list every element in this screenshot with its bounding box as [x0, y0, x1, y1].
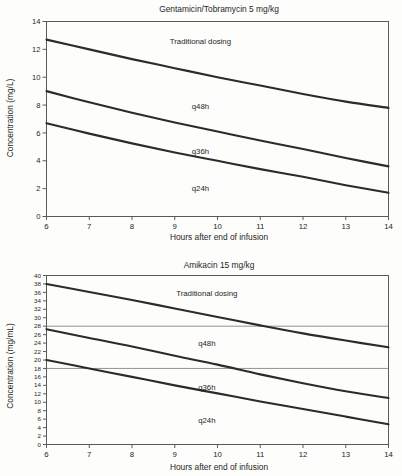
- series-label-q24h: q24h: [198, 416, 215, 425]
- x-tick-label: 6: [44, 222, 48, 231]
- chart-bottom-x-axis-label: Hours after end of infusion: [170, 462, 269, 472]
- chart-top-canvas: Gentamicin/Tobramycin 5 mg/kg Concentrat…: [0, 0, 402, 246]
- chart-amikacin: Amikacin 15 mg/kg Concentration (mg/mL) …: [0, 246, 402, 476]
- y-tick-label: 8: [38, 407, 42, 414]
- y-tick-label: 30: [34, 314, 41, 321]
- x-tick-label: 9: [173, 222, 177, 231]
- y-tick-label: 2: [36, 184, 40, 193]
- y-tick-label: 34: [34, 297, 41, 304]
- y-tick-label: 6: [36, 129, 40, 138]
- x-tick-label: 10: [213, 450, 222, 459]
- chart-bottom-plot-area: 0246810121416182022242628303234363840 67…: [34, 272, 393, 459]
- x-tick-label: 13: [341, 450, 350, 459]
- y-tick-label: 24: [34, 339, 41, 346]
- series-curve-q48h: [47, 91, 389, 166]
- x-tick-label: 14: [384, 222, 393, 231]
- x-tick-label: 7: [87, 450, 91, 459]
- chart-bottom-series: [47, 284, 389, 424]
- x-tick-label: 9: [173, 450, 177, 459]
- y-tick-label: 26: [34, 331, 41, 338]
- y-tick-label: 0: [38, 441, 42, 448]
- y-tick-label: 4: [38, 424, 42, 431]
- chart-top-y-axis-label: Concentration (mg/L): [5, 78, 15, 157]
- y-tick-label: 4: [36, 156, 40, 165]
- x-tick-label: 12: [299, 450, 308, 459]
- chart-top-title: Gentamicin/Tobramycin 5 mg/kg: [159, 4, 279, 14]
- y-tick-label: 22: [34, 348, 41, 355]
- y-tick-label: 8: [36, 101, 40, 110]
- chart-top-y-ticks: [43, 22, 47, 217]
- y-tick-label: 10: [32, 73, 40, 82]
- y-tick-label: 20: [34, 356, 41, 363]
- chart-bottom-frame: [47, 276, 389, 445]
- chart-top-x-axis-label: Hours after end of infusion: [170, 232, 269, 242]
- chart-bottom-title: Amikacin 15 mg/kg: [184, 260, 255, 270]
- series-label-q48h: q48h: [192, 102, 209, 111]
- series-label-traditional-dosing: Traditional dosing: [176, 289, 237, 298]
- x-tick-label: 12: [299, 222, 308, 231]
- chart-bottom-x-ticks: [47, 445, 389, 449]
- y-tick-label: 10: [34, 398, 41, 405]
- y-tick-label: 12: [34, 390, 41, 397]
- y-tick-label: 38: [34, 280, 41, 287]
- y-tick-label: 14: [34, 381, 41, 388]
- series-label-q48h: q48h: [198, 339, 215, 348]
- x-tick-label: 8: [130, 450, 134, 459]
- y-tick-label: 14: [32, 17, 40, 26]
- figure-page: Gentamicin/Tobramycin 5 mg/kg Concentrat…: [0, 0, 402, 476]
- chart-gentamicin-tobramycin: Gentamicin/Tobramycin 5 mg/kg Concentrat…: [0, 0, 402, 246]
- y-tick-label: 28: [34, 322, 41, 329]
- chart-top-x-ticklabels: 67891011121314: [44, 222, 393, 231]
- chart-top-series-labels: Traditional dosingq48hq36hq24h: [170, 37, 231, 192]
- x-tick-label: 13: [341, 222, 350, 231]
- x-tick-label: 8: [130, 222, 134, 231]
- y-tick-label: 40: [34, 272, 41, 279]
- chart-bottom-canvas: Amikacin 15 mg/kg Concentration (mg/mL) …: [0, 246, 402, 476]
- y-tick-label: 12: [32, 45, 40, 54]
- y-tick-label: 32: [34, 305, 41, 312]
- x-tick-label: 6: [44, 450, 48, 459]
- x-tick-label: 7: [87, 222, 91, 231]
- chart-bottom-series-labels: Traditional dosingq48hq36hq24h: [176, 289, 237, 425]
- series-curve-traditional-dosing: [47, 40, 389, 108]
- y-tick-label: 2: [38, 432, 42, 439]
- y-tick-label: 36: [34, 289, 41, 296]
- series-label-q36h: q36h: [192, 147, 209, 156]
- chart-top-plot-area: 02468101214 67891011121314 Traditional d…: [32, 17, 393, 230]
- x-tick-label: 14: [384, 450, 393, 459]
- y-tick-label: 16: [34, 373, 41, 380]
- chart-top-y-ticklabels: 02468101214: [32, 17, 40, 221]
- series-label-traditional-dosing: Traditional dosing: [170, 37, 231, 46]
- series-label-q36h: q36h: [198, 383, 215, 392]
- x-tick-label: 10: [213, 222, 222, 231]
- y-tick-label: 18: [34, 365, 41, 372]
- y-tick-label: 0: [36, 212, 40, 221]
- chart-bottom-reference-lines: [47, 326, 389, 368]
- y-tick-label: 6: [38, 415, 42, 422]
- x-tick-label: 11: [256, 450, 264, 459]
- chart-bottom-x-ticklabels: 67891011121314: [44, 450, 393, 459]
- chart-top-series: [47, 40, 389, 193]
- chart-bottom-y-axis-label: Concentration (mg/mL): [5, 323, 15, 409]
- series-curve-q24h: [47, 360, 389, 424]
- chart-bottom-y-ticklabels: 0246810121416182022242628303234363840: [34, 272, 41, 448]
- x-tick-label: 11: [256, 222, 264, 231]
- series-label-q24h: q24h: [192, 184, 209, 193]
- chart-top-x-ticks: [47, 217, 389, 221]
- series-curve-q24h: [47, 123, 389, 193]
